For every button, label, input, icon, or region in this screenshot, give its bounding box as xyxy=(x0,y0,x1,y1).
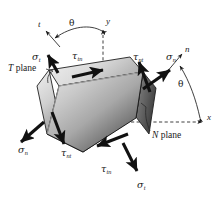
label-tau-nt-top: τnt xyxy=(133,52,143,63)
label-sigma-n-right: σn xyxy=(166,52,176,63)
label-sigma-t-top: σt xyxy=(32,52,40,63)
sigma-glyph-4: σ xyxy=(137,179,144,190)
tau-sub-2: nt xyxy=(138,56,143,63)
axis-label-n: n xyxy=(185,45,190,54)
theta-arc-left xyxy=(55,27,102,38)
sigma-sub-2: n xyxy=(173,56,176,63)
axis-label-y: y xyxy=(106,17,110,26)
label-sigma-t-bottom: σt xyxy=(137,180,145,191)
t-plane-suffix: plane xyxy=(16,63,37,73)
n-plane-label: N plane xyxy=(152,131,181,141)
sigma-sub-1: t xyxy=(39,56,41,63)
theta-arc-right xyxy=(180,66,200,118)
sigma-glyph-2: σ xyxy=(166,51,173,62)
tau-sub-4: tn xyxy=(106,168,111,175)
label-tau-tn-bottom: τtn xyxy=(101,164,111,175)
tau-sub-3: nt xyxy=(66,152,71,159)
label-sigma-n-left: σn xyxy=(18,145,28,156)
t-axis xyxy=(46,31,60,47)
sigma-sub-4: t xyxy=(144,184,146,191)
arrow-sigma-n-left xyxy=(21,122,44,142)
stress-element-figure: y x n t θ θ T plane N plane σt τtn τnt σ… xyxy=(0,0,223,204)
sigma-glyph-3: σ xyxy=(18,144,25,155)
label-tau-tn-top: τtn xyxy=(72,51,82,62)
t-plane-label: T plane xyxy=(8,64,36,74)
theta-label-right: θ xyxy=(178,80,183,89)
theta-label-left: θ xyxy=(69,19,74,28)
label-tau-nt-bottom: τnt xyxy=(61,148,71,159)
n-plane-suffix: plane xyxy=(161,130,182,140)
sigma-glyph-1: σ xyxy=(32,51,39,62)
arrow-sigma-t-bottom xyxy=(123,143,137,171)
axis-label-t: t xyxy=(38,20,41,29)
axis-label-x: x xyxy=(207,113,211,122)
figure-canvas xyxy=(0,0,223,204)
tau-sub-1: tn xyxy=(77,55,82,62)
sigma-sub-3: n xyxy=(25,149,28,156)
